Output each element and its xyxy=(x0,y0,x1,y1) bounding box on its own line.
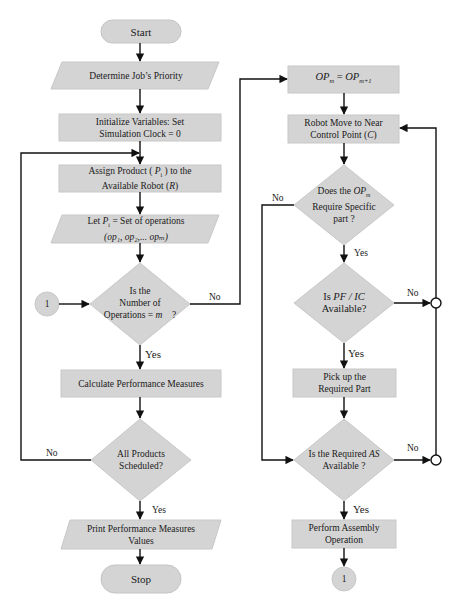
connector-1-out xyxy=(332,567,356,591)
pfic-no-label: No xyxy=(407,288,419,299)
pfic-yes-label: Yes xyxy=(348,348,364,359)
connector-1-in xyxy=(35,292,59,316)
assign-product-process-box xyxy=(59,165,221,192)
as-no-label: No xyxy=(407,443,419,454)
op-update-process-box xyxy=(288,66,399,93)
determine-priority-parallelogram xyxy=(51,62,219,89)
require-yes-label: Yes xyxy=(354,248,368,259)
let-pi-parallelogram xyxy=(51,215,219,243)
start-terminator xyxy=(101,20,181,43)
initialize-process-box xyxy=(59,114,221,141)
pf-ic-decision xyxy=(294,263,394,343)
flowchart-canvas xyxy=(0,0,461,610)
require-part-decision xyxy=(294,165,394,245)
as-yes-label: Yes xyxy=(353,504,369,515)
junction-as xyxy=(431,455,441,465)
print-parallelogram xyxy=(61,520,221,549)
pick-up-process-box xyxy=(293,369,396,397)
ops-no-label: No xyxy=(209,292,221,303)
assembly-process-box xyxy=(292,520,396,548)
stop-terminator xyxy=(101,565,181,593)
robot-move-process-box xyxy=(288,115,399,143)
junction-pfic xyxy=(431,298,441,308)
calculate-process-box xyxy=(61,370,221,397)
require-no-label: No xyxy=(272,193,284,204)
number-of-operations-decision xyxy=(90,263,190,345)
all-scheduled-decision xyxy=(91,419,191,501)
as-available-decision xyxy=(294,419,394,501)
scheduled-yes-label: Yes xyxy=(152,505,166,516)
ops-yes-label: Yes xyxy=(145,349,161,360)
scheduled-no-label: No xyxy=(46,448,58,459)
